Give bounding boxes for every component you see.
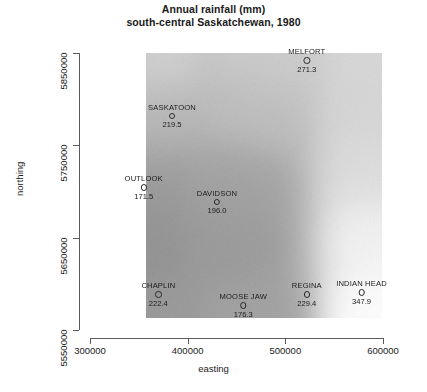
city-marker[interactable]: OUTLOOK171.5 [125, 175, 163, 201]
city-point-circle-icon [304, 57, 311, 64]
city-rainfall-value: 347.9 [336, 297, 387, 306]
title-line-2: south-central Saskatchewan, 1980 [0, 16, 427, 29]
city-marker[interactable]: CHAPLIN222.4 [141, 282, 175, 308]
city-rainfall-value: 176.3 [220, 310, 267, 319]
city-point-circle-icon [155, 291, 162, 298]
x-axis-tick-label: 400000 [172, 345, 204, 356]
y-axis-tick [73, 238, 79, 239]
city-rainfall-value: 196.0 [197, 206, 237, 215]
city-marker[interactable]: MELFORT271.3 [288, 48, 325, 74]
y-axis-line [79, 53, 80, 330]
y-axis-title: northing [14, 162, 25, 196]
y-axis-tick-label-text: 5850000 [59, 53, 70, 90]
title-line-1: Annual rainfall (mm) [0, 3, 427, 16]
y-axis-tick [73, 53, 79, 54]
y-axis-tick [73, 145, 79, 146]
y-axis-tick-label-text: 5750000 [59, 145, 70, 182]
city-name-label: REGINA [292, 282, 322, 290]
x-axis-title: easting [0, 363, 427, 374]
city-rainfall-value: 171.5 [125, 192, 163, 201]
city-rainfall-value: 229.4 [292, 299, 322, 308]
city-point-circle-icon [214, 199, 221, 206]
page-title: Annual rainfall (mm) south-central Saska… [0, 3, 427, 29]
city-point-circle-icon [240, 302, 247, 309]
city-marker[interactable]: DAVIDSON196.0 [197, 190, 237, 216]
x-axis-tick [90, 338, 91, 344]
x-axis-tick [383, 338, 384, 344]
city-point-circle-icon [140, 184, 147, 191]
city-name-label: SASKATOON [148, 104, 196, 112]
city-name-label: OUTLOOK [125, 175, 163, 183]
city-rainfall-value: 222.4 [141, 299, 175, 308]
rainfall-map-plot: Annual rainfall (mm) south-central Saska… [0, 0, 427, 392]
city-marker[interactable]: REGINA229.4 [292, 282, 322, 308]
city-name-label: CHAPLIN [141, 282, 175, 290]
city-point-circle-icon [169, 113, 176, 120]
y-axis-tick [73, 330, 79, 331]
city-name-label: DAVIDSON [197, 190, 237, 198]
city-name-label: MELFORT [288, 48, 325, 56]
x-axis-tick-label: 600000 [367, 345, 399, 356]
city-rainfall-value: 271.3 [288, 65, 325, 74]
x-axis-line [90, 338, 383, 339]
city-marker[interactable]: MOOSE JAW176.3 [220, 293, 267, 319]
x-axis-tick [285, 338, 286, 344]
x-axis-tick [188, 338, 189, 344]
city-point-circle-icon [304, 291, 311, 298]
city-marker[interactable]: INDIAN HEAD347.9 [336, 280, 387, 306]
city-point-circle-icon [358, 289, 365, 296]
x-axis-tick-label: 500000 [269, 345, 301, 356]
city-marker[interactable]: SASKATOON219.5 [148, 104, 196, 130]
y-axis-tick-label-text: 5650000 [59, 237, 70, 274]
city-rainfall-value: 219.5 [148, 120, 196, 129]
city-name-label: MOOSE JAW [220, 293, 267, 301]
y-axis-tick-label-text: 5550000 [59, 330, 70, 367]
city-name-label: INDIAN HEAD [336, 280, 387, 288]
x-axis-tick-label: 300000 [74, 345, 106, 356]
